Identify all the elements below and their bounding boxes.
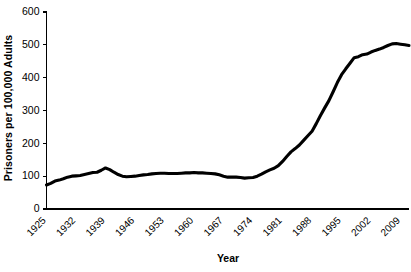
x-axis-tick-label: 1974 — [231, 214, 255, 238]
y-axis-tick-label: 500 — [22, 38, 40, 50]
y-axis-tick-label: 200 — [22, 137, 40, 149]
y-axis-tick-label: 300 — [22, 104, 40, 116]
x-axis-tick-labels: 1925193219391946195319601967197419811988… — [24, 214, 402, 238]
x-axis-tick-label: 1981 — [260, 214, 284, 238]
x-axis-tick-label: 1967 — [201, 214, 225, 238]
y-axis-tick-label: 600 — [22, 5, 40, 17]
x-axis-tick-label: 1988 — [290, 214, 314, 238]
x-axis-tick-label: 2002 — [349, 214, 373, 238]
x-axis-tick-label: 1925 — [24, 214, 48, 238]
y-axis-tick-label: 400 — [22, 71, 40, 83]
line-chart-plot: 0100200300400500600 19251932193919461953… — [0, 0, 411, 272]
y-axis-tick-labels: 0100200300400500600 — [22, 5, 40, 214]
chart-container: Prisoners per 100,000 Adults 01002003004… — [0, 0, 411, 272]
x-axis-tick-label: 1953 — [142, 214, 166, 238]
x-axis-tick-label: 1960 — [172, 214, 196, 238]
y-axis-tick-label: 0 — [34, 202, 40, 214]
x-axis-tick-label: 1995 — [319, 214, 343, 238]
x-axis-tick-label: 1939 — [83, 214, 107, 238]
y-axis-tick-label: 100 — [22, 169, 40, 181]
x-axis-tick-label: 1932 — [54, 214, 78, 238]
data-series-line — [47, 44, 410, 186]
x-axis-title: Year — [45, 252, 411, 264]
x-axis-tick-label: 1946 — [113, 214, 137, 238]
x-axis-tick-label: 2009 — [378, 214, 402, 238]
